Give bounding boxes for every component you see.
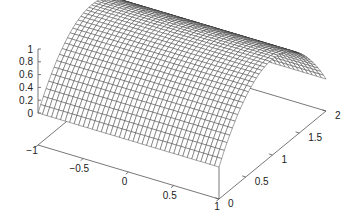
y-tick [322,110,326,111]
y-tick-label: 1.5 [308,132,322,143]
z-tick-label: 0.6 [19,69,33,80]
y-tick-label: 1 [282,154,288,165]
x-tick-label: 0.5 [163,190,177,201]
z-tick-label: 1 [27,44,33,55]
z-tick-label: 0.4 [19,82,33,93]
y-tick [242,176,246,177]
surface-mesh [38,0,326,167]
x-tick [81,159,84,161]
y-tick [269,154,273,155]
z-tick-label: 0.8 [19,56,33,67]
x-tick [171,186,174,188]
y-tick-label: 0 [228,198,234,209]
z-tick-label: 0 [27,108,33,119]
x-tick-label: −0.5 [69,163,89,174]
y-tick-label: 0.5 [255,176,269,187]
z-tick-label: 0.2 [19,95,33,106]
y-tick [215,198,219,199]
surface-plot: 00.20.40.60.81−1−0.500.5100.511.52 [0,0,359,218]
x-tick-label: 1 [214,201,220,212]
y-tick [296,132,300,133]
x-tick-label: 0 [122,176,128,187]
x-tick [126,172,129,174]
y-tick-label: 2 [335,110,341,121]
x-tick-label: −1 [26,145,38,156]
